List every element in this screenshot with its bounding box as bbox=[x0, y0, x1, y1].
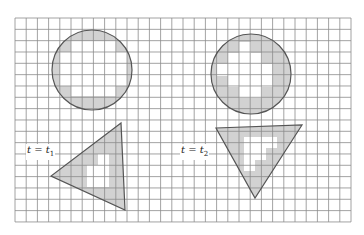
time-label-t1: t = t1 bbox=[26, 144, 55, 160]
label-eq: = bbox=[185, 144, 200, 155]
triangle-t2-fill bbox=[216, 125, 302, 198]
grid-diagram bbox=[0, 0, 364, 235]
label-eq: = bbox=[31, 144, 46, 155]
time-label-t2: t = t2 bbox=[180, 144, 209, 160]
label-subscript: 1 bbox=[50, 150, 54, 158]
label-subscript: 2 bbox=[204, 150, 208, 158]
